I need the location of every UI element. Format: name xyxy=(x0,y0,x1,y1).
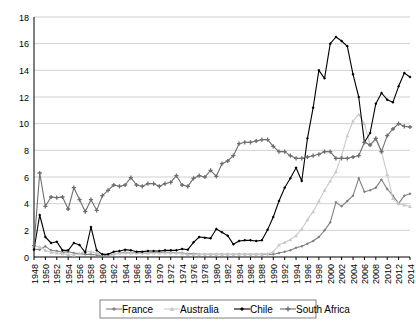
x-tick-label: 1996 xyxy=(303,264,313,284)
data-point xyxy=(248,140,252,144)
data-point xyxy=(72,186,76,190)
x-tick-label: 2006 xyxy=(360,264,370,284)
y-tick-label: 6 xyxy=(24,173,29,183)
chart-legend: FranceAustraliaChileSouth Africa xyxy=(100,300,350,318)
data-point xyxy=(163,182,167,186)
data-point xyxy=(243,140,247,144)
data-point xyxy=(277,252,280,255)
data-point xyxy=(397,85,400,88)
x-tick-label: 1984 xyxy=(235,264,245,284)
y-tick-label: 14 xyxy=(19,66,29,76)
data-point xyxy=(89,253,92,256)
data-point xyxy=(77,198,81,202)
data-point xyxy=(357,96,360,99)
x-tick-label: 1952 xyxy=(52,264,62,284)
x-tick-label: 1980 xyxy=(212,264,222,284)
data-point xyxy=(124,248,127,251)
legend-label-south-africa: South Africa xyxy=(296,304,350,315)
data-point xyxy=(255,240,258,243)
chart-canvas: 024681012141618 194819501952195419561958… xyxy=(0,0,416,327)
data-point xyxy=(243,239,246,242)
x-tick-label: 2008 xyxy=(371,264,381,284)
data-point xyxy=(89,198,93,202)
data-point xyxy=(152,182,156,186)
x-tick-label: 1958 xyxy=(86,264,96,284)
y-axis-ticks: 024681012141618 xyxy=(19,13,29,263)
data-point xyxy=(237,142,241,146)
data-point xyxy=(169,249,172,252)
legend-label-chile: Chile xyxy=(250,304,273,315)
data-point xyxy=(345,156,349,160)
data-point xyxy=(146,182,150,186)
x-tick-label: 1986 xyxy=(246,264,256,284)
x-tick-label: 1974 xyxy=(178,264,188,284)
data-point xyxy=(357,112,361,116)
x-tick-label: 1948 xyxy=(30,264,40,284)
x-tick-label: 1990 xyxy=(269,264,279,284)
y-tick-label: 16 xyxy=(19,39,29,49)
x-tick-label: 2010 xyxy=(383,264,393,284)
data-point xyxy=(117,184,121,188)
data-point xyxy=(66,207,70,211)
legend-label-australia: Australia xyxy=(180,304,219,315)
x-axis-ticks: 1948195019521954195619581960196219641966… xyxy=(30,257,416,284)
data-point xyxy=(95,208,99,212)
data-point xyxy=(203,236,206,239)
data-point xyxy=(32,244,36,248)
series-chile xyxy=(33,36,412,256)
x-tick-label: 1964 xyxy=(121,264,131,284)
axes xyxy=(34,17,410,257)
data-point xyxy=(351,155,355,159)
data-point xyxy=(385,172,389,176)
series-france xyxy=(33,177,412,257)
data-point xyxy=(140,184,144,188)
data-point xyxy=(38,171,42,175)
data-point xyxy=(220,162,224,166)
series-line xyxy=(34,114,410,255)
x-tick-label: 1956 xyxy=(75,264,85,284)
data-point xyxy=(294,156,298,160)
data-point xyxy=(146,250,149,253)
y-tick-label: 12 xyxy=(19,93,29,103)
data-point xyxy=(334,170,338,174)
data-point xyxy=(89,226,92,229)
y-tick-label: 0 xyxy=(24,253,29,263)
x-tick-label: 1954 xyxy=(64,264,74,284)
data-point xyxy=(345,134,349,138)
x-tick-label: 1992 xyxy=(280,264,290,284)
data-point xyxy=(300,180,303,183)
data-series xyxy=(32,36,412,258)
y-tick-label: 18 xyxy=(19,13,29,23)
data-point xyxy=(83,210,87,214)
data-point xyxy=(164,249,167,252)
x-tick-label: 1988 xyxy=(257,264,267,284)
x-tick-label: 1972 xyxy=(166,264,176,284)
x-tick-label: 1962 xyxy=(109,264,119,284)
series-south-africa xyxy=(32,122,412,248)
legend-label-france: France xyxy=(122,304,154,315)
data-point xyxy=(157,184,161,188)
data-point xyxy=(175,249,178,252)
x-tick-label: 1968 xyxy=(143,264,153,284)
data-point xyxy=(317,152,321,156)
x-tick-label: 1994 xyxy=(292,264,302,284)
y-tick-label: 2 xyxy=(24,226,29,236)
series-line xyxy=(34,37,410,254)
data-point xyxy=(283,250,286,253)
x-tick-label: 1982 xyxy=(223,264,233,284)
line-chart: 024681012141618 194819501952195419561958… xyxy=(0,0,416,327)
y-tick-label: 10 xyxy=(19,119,29,129)
data-point xyxy=(129,249,132,252)
data-point xyxy=(118,250,121,253)
data-point xyxy=(408,125,412,129)
x-tick-label: 2014 xyxy=(406,264,416,284)
data-point xyxy=(306,137,309,140)
x-tick-label: 2000 xyxy=(326,264,336,284)
data-point xyxy=(357,154,361,158)
x-tick-label: 1998 xyxy=(314,264,324,284)
data-point xyxy=(352,73,355,76)
x-tick-label: 1950 xyxy=(41,264,51,284)
x-tick-label: 1978 xyxy=(200,264,210,284)
x-tick-label: 1966 xyxy=(132,264,142,284)
y-tick-label: 8 xyxy=(24,146,29,156)
